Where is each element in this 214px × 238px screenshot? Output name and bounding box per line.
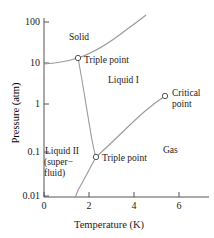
critical-point-label-line1: Critical xyxy=(172,88,201,99)
upper-triple-point-marker xyxy=(75,55,80,60)
vapor-pressure-curve xyxy=(96,96,165,157)
x-tick-label-6: 6 xyxy=(169,200,189,211)
critical-point-marker xyxy=(162,93,167,98)
y-axis-title-wrapper: Pressure (atm) xyxy=(5,73,23,153)
y-axis-title: Pressure (atm) xyxy=(10,83,21,144)
x-tick-label-0: 0 xyxy=(34,200,54,211)
region-label-liquid-two: Liquid II xyxy=(45,146,79,157)
y-tick-label-100: 100 xyxy=(8,16,40,27)
upper-triple-point-label: Triple point xyxy=(84,55,129,66)
region-label-solid: Solid xyxy=(69,32,89,43)
critical-point-label-line2: point xyxy=(172,99,192,110)
phase-diagram-figure: 100 10 1 0.1 0.01 0 2 4 6 Temperature (K… xyxy=(0,0,214,238)
sublimation-curve xyxy=(76,157,97,197)
region-label-gas: Gas xyxy=(163,145,178,156)
lower-triple-point-marker xyxy=(93,154,98,159)
lower-triple-point-label: Triple point xyxy=(102,153,147,164)
region-label-superfluid-line1: (super− xyxy=(44,157,73,168)
y-tick-label-10: 10 xyxy=(8,57,40,68)
x-tick-label-4: 4 xyxy=(124,200,144,211)
lambda-line xyxy=(78,58,96,157)
x-axis-title: Temperature (K) xyxy=(74,219,144,231)
x-tick-label-2: 2 xyxy=(79,200,99,211)
region-label-superfluid-line2: fluid) xyxy=(44,168,65,179)
region-label-liquid-one: Liquid I xyxy=(108,75,139,86)
